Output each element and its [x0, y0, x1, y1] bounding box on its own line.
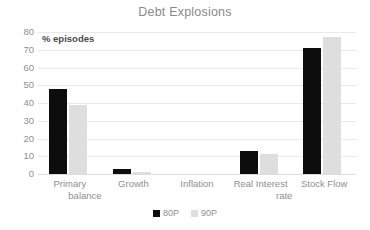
legend-item[interactable]: 80P	[153, 208, 179, 218]
bar-90p	[323, 37, 341, 174]
x-axis-tick-line: Primary	[38, 178, 102, 190]
x-axis-tick-line: rate	[229, 190, 293, 202]
bar-80p	[303, 48, 321, 174]
legend-swatch-icon	[153, 210, 160, 217]
bar-group	[229, 32, 293, 174]
bar-90p	[69, 105, 87, 174]
x-axis-tick-line: Stock Flow	[292, 178, 356, 190]
y-axis-tick-label: 0	[2, 169, 34, 179]
legend-item[interactable]: 90P	[191, 208, 217, 218]
bar-90p	[133, 172, 151, 174]
bars-layer	[38, 32, 356, 174]
bar-group	[38, 32, 102, 174]
y-axis-tick-label: 50	[2, 80, 34, 90]
y-axis: 01020304050607080	[0, 32, 34, 174]
x-axis-tick-line: Growth	[102, 178, 166, 190]
bar-80p	[49, 89, 67, 174]
bar-group	[165, 32, 229, 174]
x-axis-tick-label: Inflation	[165, 178, 229, 190]
x-axis-tick-line: Inflation	[165, 178, 229, 190]
y-axis-tick-label: 20	[2, 134, 34, 144]
x-axis-tick-label: Stock Flow	[292, 178, 356, 190]
x-axis-tick-line: balance	[38, 190, 102, 202]
legend-label: 80P	[163, 208, 179, 218]
chart-legend: 80P90P	[0, 208, 370, 218]
legend-label: 90P	[201, 208, 217, 218]
x-axis-tick-line: Real Interest	[229, 178, 293, 190]
bar-90p	[260, 154, 278, 174]
y-axis-tick-label: 80	[2, 27, 34, 37]
y-axis-tick-label: 40	[2, 98, 34, 108]
chart-title: Debt Explosions	[0, 5, 370, 19]
bar-80p	[240, 151, 258, 174]
y-axis-tick-label: 70	[2, 45, 34, 55]
chart-container: Debt Explosions % episodes 0102030405060…	[0, 0, 370, 230]
bar-80p	[113, 169, 131, 174]
y-axis-tick-label: 30	[2, 116, 34, 126]
x-axis-tick-label: Growth	[102, 178, 166, 190]
bar-group	[292, 32, 356, 174]
x-axis: PrimarybalanceGrowthInflationReal Intere…	[38, 178, 356, 204]
y-axis-tick-label: 60	[2, 63, 34, 73]
x-axis-tick-label: Primarybalance	[38, 178, 102, 201]
x-axis-tick-label: Real Interestrate	[229, 178, 293, 201]
gridline	[38, 174, 356, 175]
bar-group	[102, 32, 166, 174]
y-axis-tick-label: 10	[2, 151, 34, 161]
legend-swatch-icon	[191, 210, 198, 217]
